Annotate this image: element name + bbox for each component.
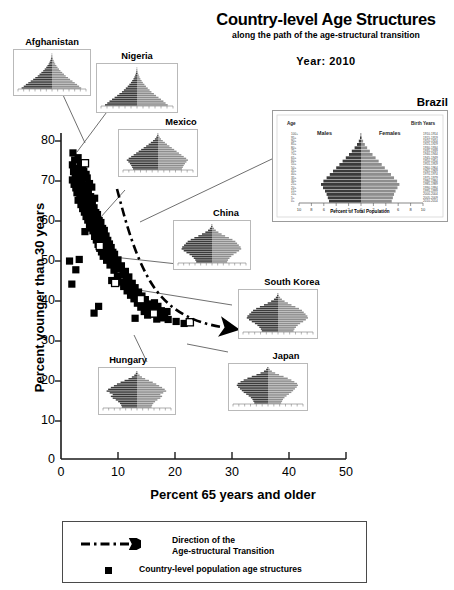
pyramid-mexico: {"w":78,"h":46,"style":"early"} [119,130,197,176]
data-point [76,256,83,263]
pyramid-nigeria: {"w":80,"h":48,"style":"expansive"} [97,64,177,112]
inset-brazil: 1086420246810100+1910-191495+1915-191990… [272,110,448,222]
brazil-age-header: Age [287,121,296,126]
inset-nigeria: {"w":80,"h":48,"style":"expansive"} [96,63,178,113]
data-point [112,279,119,286]
legend-marker-label: Country-level population age structures [139,564,302,574]
legend-marker-square-icon [105,567,112,574]
data-point [81,228,88,235]
legend-arrow-icon [79,538,141,550]
pyramid-afghanistan: {"w":76,"h":45,"style":"expansive"} [14,50,90,95]
legend: Direction of the Age-structural Transiti… [62,521,367,583]
inset-caption-japan: Japan [245,351,327,361]
inset-caption-afghanistan: Afghanistan [13,37,91,47]
data-point [173,318,180,325]
inset-caption-nigeria: Nigeria [96,51,178,61]
chart-root: Country-level Age Structures along the p… [0,0,454,590]
inset-caption-brazil: Brazil [272,96,448,108]
data-point [95,303,102,310]
pyramid-china: {"w":76,"h":48,"style":"mature"} [174,221,250,269]
data-point [165,316,172,323]
y-axis-ticks [55,141,61,421]
data-point [72,266,79,273]
inset-caption-hungary: Hungary [90,355,166,365]
inset-afghanistan: {"w":76,"h":45,"style":"expansive"} [13,49,91,96]
data-point [137,296,144,303]
brazil-birthyears-header: Birth Years [411,121,435,126]
data-point [90,310,97,317]
pyramid-japan: {"w":78,"h":46,"style":"aged"} [229,364,307,410]
inset-caption-china: China [186,208,266,218]
svg-text:2010-2014: 2010-2014 [423,199,438,203]
data-point [96,242,103,249]
legend-arrow-label-line2: Age-structural Transition [172,546,274,556]
inset-caption-south-korea: South Korea [248,277,336,287]
brazil-x-axis-title: Percent of Total Population [272,209,448,214]
data-point [81,160,88,167]
legend-arrow-label-line1: Direction of the [172,535,235,545]
data-point [132,315,139,322]
inset-china: {"w":76,"h":48,"style":"mature"} [173,220,251,270]
inset-south-korea: {"w":78,"h":48,"style":"mature"} [238,289,318,339]
brazil-females-label: Females [379,130,401,136]
inset-japan: {"w":78,"h":46,"style":"aged"} [228,363,308,411]
inset-hungary: {"w":76,"h":46,"style":"post"} [98,367,176,415]
brazil-males-label: Males [317,130,332,136]
pyramid-south-korea: {"w":78,"h":48,"style":"mature"} [239,290,317,338]
x-axis-ticks [118,452,346,459]
data-point [68,281,75,288]
svg-text:0+: 0+ [291,199,295,203]
inset-caption-mexico: Mexico [140,117,222,127]
inset-mexico: {"w":78,"h":46,"style":"early"} [118,129,198,177]
pyramid-hungary: {"w":76,"h":46,"style":"post"} [99,368,175,414]
data-point [150,310,157,317]
data-point [66,257,73,264]
pyramid-brazil: 1086420246810100+1910-191495+1915-191990… [273,111,447,221]
